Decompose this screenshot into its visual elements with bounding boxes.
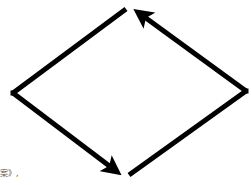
segment-bottom-right <box>129 91 246 175</box>
segment-top-left <box>13 9 126 93</box>
cycle-diagram <box>0 0 251 185</box>
segment-top-right-arrow <box>139 13 246 91</box>
diamond-arrows <box>13 9 246 175</box>
caption-fragment: 案》, <box>0 169 19 179</box>
segment-bottom-left-arrow <box>13 93 116 171</box>
